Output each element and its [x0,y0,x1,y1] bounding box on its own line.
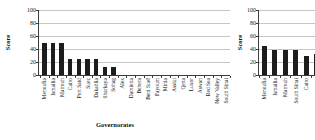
bar-Ismailia [272,50,277,75]
x-tick-mark [83,76,84,78]
x-tick-mark [144,76,145,78]
x-category-label: Ismailia [272,78,278,140]
x-category-label: Qena [180,78,186,140]
bar-Dakahlia [94,59,99,75]
x-tick-mark [230,76,231,78]
gridline-60 [38,36,230,37]
y-tick-label: 60 [236,33,256,39]
bar-Sohag [111,67,116,75]
x-tick-mark [221,76,222,78]
gridline-40 [38,49,230,50]
x-tick-mark [161,76,162,78]
x-tick-mark [40,76,41,78]
bar-South Sinai [293,50,298,75]
x-tick-mark [178,76,179,78]
y-tick-label: 0 [16,72,36,78]
y-tick-label: 80 [236,20,256,26]
x-tick-mark [152,76,153,78]
x-category-label: South Sinai [223,78,229,140]
y-tick-label: 20 [236,59,256,65]
bar-Ismailia [51,43,56,76]
x-category-label: New Valley [214,78,220,140]
x-category-label: Red Sea [205,78,211,140]
x-category-label: Sharkaya [102,78,108,140]
y-tick-label: 20 [16,59,36,65]
y-tick-label: 80 [16,20,36,26]
x-tick-mark [213,76,214,78]
y-tick-label: 60 [16,33,36,39]
bar-Cairo [304,56,309,76]
y-axis-line [38,10,39,76]
bar-Port Said [77,59,82,75]
x-tick-mark [49,76,50,78]
gridline-100 [38,10,230,11]
x-tick-mark [290,76,291,78]
x-tick-mark [187,76,188,78]
x-category-label: South Sinai [293,78,299,140]
x-category-label: Behera [136,78,142,140]
bar-Cairo [68,59,73,75]
x-category-label: Menoufia [261,78,267,140]
gridline-60 [258,36,315,37]
x-category-label: Luxor [188,78,194,140]
x-tick-mark [311,76,312,78]
x-category-label: Aswan [197,78,203,140]
x-tick-mark [75,76,76,78]
x-tick-mark [269,76,270,78]
x-tick-mark [135,76,136,78]
x-tick-mark [204,76,205,78]
x-category-label: Assiut [171,78,177,140]
bar-Menoufia [42,43,47,76]
gridline-80 [38,23,230,24]
x-tick-mark [280,76,281,78]
x-tick-mark [259,76,260,78]
x-category-label: Port Said [76,78,82,140]
x-tick-mark [118,76,119,78]
bar-Matrouh [59,43,64,76]
gridline-100 [258,10,315,11]
x-tick-mark [126,76,127,78]
x-category-label: Cairo [67,78,73,140]
y-tick-label: 100 [236,7,256,13]
y-axis-line [258,10,259,76]
x-tick-mark [109,76,110,78]
bar-Suez [85,59,90,75]
x-category-label: Cairo [303,78,309,140]
y-tick-label: 0 [236,72,256,78]
x-category-label: Menoufia [41,78,47,140]
x-category-label: Ismailia [50,78,56,140]
left-chart-y-axis-title: Score [4,10,12,75]
x-tick-mark [92,76,93,78]
x-category-label: Fayoum [154,78,160,140]
x-category-label: Dakahlia [93,78,99,140]
x-category-label: Damietta [128,78,134,140]
x-tick-mark [170,76,171,78]
x-category-label: Beni Suef [145,78,151,140]
bar-col-5 [314,54,315,75]
x-category-label: Suez [85,78,91,140]
x-category-label: Matrouh [59,78,65,140]
y-tick-label: 40 [16,46,36,52]
bar-Matrouh [283,50,288,75]
y-tick-label: 100 [16,7,36,13]
x-tick-mark [195,76,196,78]
x-category-label: Alex [119,78,125,140]
bar-Sharkaya [103,67,108,75]
y-tick-label: 40 [236,46,256,52]
x-tick-mark [57,76,58,78]
figure-two-bar-charts: Score Governorates Score 020406080100Men… [0,0,315,140]
x-tick-mark [301,76,302,78]
gridline-80 [258,23,315,24]
bar-Menoufia [262,46,267,75]
x-category-label: Minia [162,78,168,140]
x-tick-mark [100,76,101,78]
x-axis-line [258,75,315,76]
x-category-label: Matrouh [282,78,288,140]
gridline-20 [38,62,230,63]
x-category-label: Sohag [110,78,116,140]
x-tick-mark [66,76,67,78]
